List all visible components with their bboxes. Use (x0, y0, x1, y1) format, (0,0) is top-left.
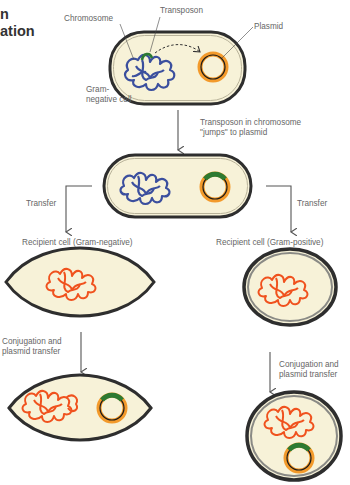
recipient-cell-gram-positive (244, 249, 336, 325)
result-cell-gram-negative (9, 375, 151, 440)
label-conjugation-left: Conjugation and plasmid transfer (2, 337, 62, 357)
label-conjugation-right-line2: plasmid transfer (279, 370, 339, 380)
donor-cell-after-jump (104, 155, 251, 217)
cell-wall (9, 375, 151, 440)
label-jump-line1: Transposon in chromosome (200, 118, 301, 128)
label-chromosome: Chromosome (64, 14, 113, 24)
label-conjugation-right-line1: Conjugation and (279, 360, 339, 370)
arrow-transfer-right (266, 186, 291, 232)
label-transfer-right: Transfer (297, 199, 327, 209)
label-transfer-left: Transfer (26, 199, 56, 209)
label-gram-negative-cell: Gram- negative cell (86, 85, 132, 105)
label-conjugation-right: Conjugation and plasmid transfer (279, 360, 339, 380)
label-transposon-jumps: Transposon in chromosome "jumps" to plas… (200, 118, 301, 138)
cell-wall (6, 248, 154, 316)
result-cell-gram-positive (247, 392, 341, 480)
recipient-cell-gram-negative (6, 248, 154, 316)
label-gram-negative-cell-line1: Gram- (86, 85, 132, 95)
label-transposon: Transposon (160, 6, 203, 16)
cell-wall (244, 249, 336, 325)
arrow-transfer-left (66, 186, 92, 232)
label-conjugation-left-line1: Conjugation and (2, 337, 62, 347)
label-jump-line2: "jumps" to plasmid (200, 128, 301, 138)
label-conjugation-left-line2: plasmid transfer (2, 347, 62, 357)
label-recipient-gram-positive: Recipient cell (Gram-positive) (216, 238, 323, 248)
label-gram-negative-cell-line2: negative cell (86, 95, 132, 105)
label-recipient-gram-negative: Recipient cell (Gram-negative) (22, 238, 133, 248)
label-plasmid: Plasmid (254, 22, 283, 32)
